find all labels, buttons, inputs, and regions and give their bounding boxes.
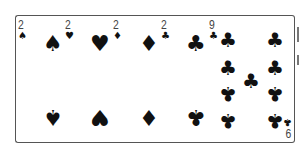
card-2-of-hearts[interactable]: 2 ♥ ♥ ♥ xyxy=(63,15,112,143)
card-2-of-diamonds[interactable]: 2 ♦ ♦ ♦ xyxy=(111,15,160,143)
card-2-of-spades[interactable]: 2 ♠ ♠ ♠ xyxy=(15,15,64,143)
club-icon: ♣ xyxy=(219,58,237,78)
club-icon: ♣ xyxy=(219,111,237,131)
spade-icon: ♠ xyxy=(43,106,63,128)
diamond-icon: ♦ xyxy=(139,33,159,55)
club-icon: ♣ xyxy=(209,31,218,41)
club-icon: ♣ xyxy=(219,30,237,50)
club-icon: ♣ xyxy=(186,106,206,128)
card-2-of-clubs[interactable]: 2 ♣ ♣ ♣ xyxy=(159,15,208,143)
spade-icon: ♠ xyxy=(43,33,63,55)
partial-glyph xyxy=(297,55,299,65)
club-icon: ♣ xyxy=(186,33,206,55)
heart-icon: ♥ xyxy=(90,33,110,55)
card-hand: 2 ♠ ♠ ♠ 2 ♥ ♥ ♥ 2 ♦ ♦ ♦ 2 ♣ ♣ ♣ 9 ♣ ♣ ♣ … xyxy=(15,15,295,145)
club-icon: ♣ xyxy=(266,30,284,50)
spade-icon: ♠ xyxy=(18,31,27,41)
club-icon: ♣ xyxy=(219,84,237,104)
card-9-of-clubs[interactable]: 9 ♣ ♣ ♣ ♣ ♣ ♣ ♣ ♣ ♣ ♣ ♣ 6 xyxy=(207,15,295,143)
card-rank-bottom: 6 xyxy=(285,127,291,140)
club-icon: ♣ xyxy=(161,31,170,41)
club-icon: ♣ xyxy=(266,111,284,131)
club-icon: ♣ xyxy=(242,71,260,91)
heart-icon: ♥ xyxy=(90,106,110,128)
club-icon: ♣ xyxy=(266,84,284,104)
club-icon: ♣ xyxy=(266,58,284,78)
diamond-icon: ♦ xyxy=(139,106,159,128)
heart-icon: ♥ xyxy=(65,31,74,41)
diamond-icon: ♦ xyxy=(113,31,122,41)
partial-glyph xyxy=(297,27,299,42)
